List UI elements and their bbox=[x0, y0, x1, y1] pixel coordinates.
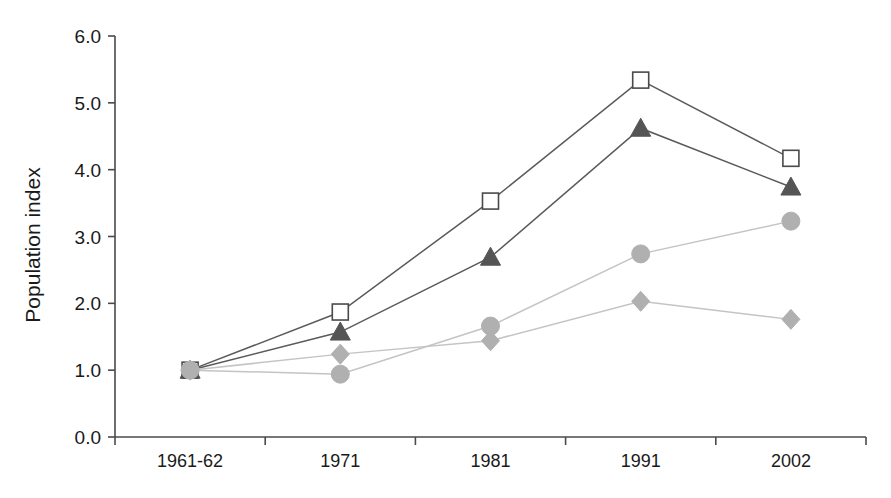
x-tick-label: 1961-62 bbox=[157, 451, 223, 471]
x-tick-label: 1981 bbox=[470, 451, 510, 471]
x-tick-label: 1991 bbox=[621, 451, 661, 471]
data-point-marker bbox=[483, 193, 499, 209]
x-tick-label: 1971 bbox=[320, 451, 360, 471]
y-tick-label: 0.0 bbox=[75, 427, 101, 448]
data-point-marker bbox=[782, 212, 800, 230]
data-point-marker bbox=[632, 245, 650, 263]
y-tick-label: 6.0 bbox=[75, 26, 101, 47]
x-tick-label: 2002 bbox=[771, 451, 811, 471]
chart-background bbox=[0, 0, 891, 498]
y-tick-label: 4.0 bbox=[75, 160, 101, 181]
y-tick-label: 1.0 bbox=[75, 360, 101, 381]
data-point-marker bbox=[332, 304, 348, 320]
y-tick-label: 3.0 bbox=[75, 227, 101, 248]
population-index-line-chart: Population index 0.01.02.03.04.05.06.0 1… bbox=[0, 0, 891, 498]
data-point-marker bbox=[633, 72, 649, 88]
y-axis-title: Population index bbox=[21, 167, 44, 323]
chart-canvas: Population index 0.01.02.03.04.05.06.0 1… bbox=[0, 0, 891, 498]
data-point-marker bbox=[783, 150, 799, 166]
y-tick-label: 5.0 bbox=[75, 93, 101, 114]
data-point-marker bbox=[331, 365, 349, 383]
y-tick-label: 2.0 bbox=[75, 293, 101, 314]
